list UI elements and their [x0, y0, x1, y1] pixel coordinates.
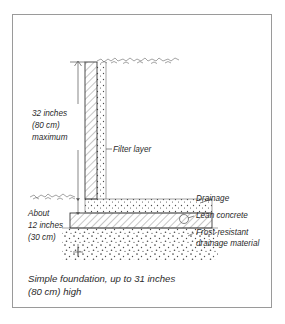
- ground-line-lower: [30, 194, 75, 200]
- foundation-wall: [85, 62, 97, 199]
- lean-concrete-label: Lean concrete: [196, 211, 248, 220]
- depth-dimension-line-1: About: [27, 209, 50, 218]
- drainage-label: Drainage: [196, 194, 230, 203]
- height-dimension-line-1: 32 inches: [32, 109, 67, 118]
- caption-line-1: Simple foundation, up to 31 inches: [28, 273, 175, 284]
- height-dimension-line-3: maximum: [32, 133, 68, 142]
- ground-line-top: [97, 58, 179, 64]
- frost-resistant-layer: [62, 228, 218, 260]
- foundation-cross-section-diagram: 32 inches (80 cm) maximum About 12 inche…: [0, 0, 285, 324]
- height-dimension-line-2: (80 cm): [32, 121, 60, 130]
- frost-resistant-label-line-2: drainage material: [196, 239, 259, 248]
- figure-root: 32 inches (80 cm) maximum About 12 inche…: [0, 0, 285, 324]
- lean-concrete-layer: [70, 213, 212, 228]
- drainage-layer: [85, 199, 212, 213]
- filter-layer-column: [97, 62, 106, 199]
- caption-line-2: (80 cm) high: [28, 286, 81, 297]
- depth-dimension-line-2: 12 inches: [28, 221, 63, 230]
- height-dimension: [70, 61, 85, 199]
- frost-resistant-label-line-1: Frost-resistant: [196, 228, 249, 237]
- figure-frame: [13, 15, 272, 308]
- filter-layer-label: Filter layer: [113, 145, 151, 154]
- depth-dimension-line-3: (30 cm): [28, 233, 56, 242]
